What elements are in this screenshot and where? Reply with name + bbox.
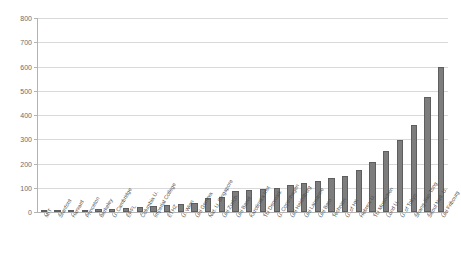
x-tick-label-text: MIT xyxy=(44,208,53,219)
y-tick-label: 300 xyxy=(20,136,32,143)
y-tick-label: 400 xyxy=(20,112,32,119)
bars-layer xyxy=(37,18,448,212)
y-tick-label: 500 xyxy=(20,87,32,94)
y-tick-label: 600 xyxy=(20,63,32,70)
x-axis-labels: MITStanfordHarvardPrincetonBerkeleyU. Ca… xyxy=(37,213,448,271)
y-tick-label: 700 xyxy=(20,39,32,46)
y-tick-label: 0 xyxy=(28,209,32,216)
y-tick-label: 100 xyxy=(20,184,32,191)
y-tick-label: 200 xyxy=(20,160,32,167)
x-tick-label: MIT xyxy=(44,208,53,219)
y-tick-label: 800 xyxy=(20,15,32,22)
